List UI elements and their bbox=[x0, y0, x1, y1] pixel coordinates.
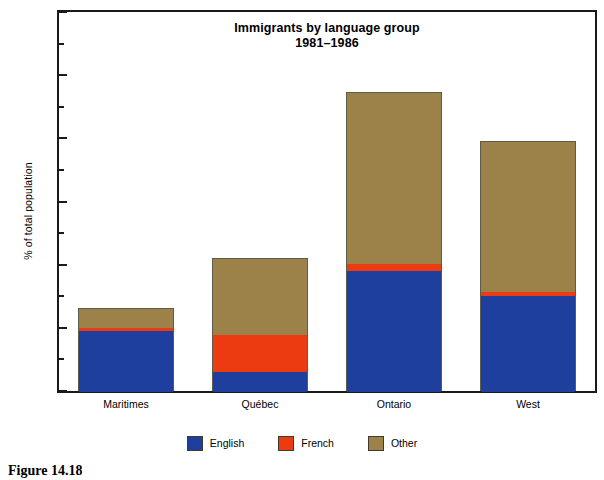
y-tick-minor bbox=[58, 358, 64, 360]
stacked-bar bbox=[212, 258, 308, 391]
legend-swatch-icon bbox=[187, 436, 203, 451]
bar-segment-other bbox=[481, 142, 575, 292]
y-tick-minor bbox=[58, 106, 64, 108]
y-tick-minor bbox=[58, 43, 64, 45]
legend-item: French bbox=[278, 436, 334, 451]
y-axis-title: % of total population bbox=[22, 131, 34, 291]
y-tick-minor bbox=[58, 232, 64, 234]
bar-segment-english bbox=[481, 296, 575, 392]
legend-swatch-icon bbox=[278, 436, 294, 451]
x-axis-label: West bbox=[478, 399, 578, 410]
y-tick-major bbox=[58, 11, 67, 13]
y-tick-major bbox=[58, 74, 67, 76]
x-axis-label: Québec bbox=[210, 399, 310, 410]
chart-legend: EnglishFrenchOther bbox=[0, 436, 604, 451]
legend-label: English bbox=[210, 438, 244, 449]
stacked-bar bbox=[480, 141, 576, 391]
legend-swatch-icon bbox=[368, 436, 384, 451]
bar-segment-other bbox=[347, 93, 441, 265]
chart-title-line2: 1981–1986 bbox=[59, 36, 595, 51]
plot-area: Immigrants by language group 1981–1986 0… bbox=[57, 10, 597, 393]
plot-inner: Immigrants by language group 1981–1986 0… bbox=[59, 12, 595, 391]
stacked-bar bbox=[346, 92, 442, 391]
y-tick-major bbox=[58, 201, 67, 203]
bar-segment-other bbox=[79, 309, 173, 328]
bar-segment-english bbox=[213, 372, 307, 392]
legend-label: Other bbox=[391, 438, 417, 449]
figure-container: % of total population Immigrants by lang… bbox=[0, 0, 604, 480]
legend-item: English bbox=[187, 436, 244, 451]
y-tick-major bbox=[58, 137, 67, 139]
x-axis-label: Ontario bbox=[344, 399, 444, 410]
y-tick-major bbox=[58, 327, 67, 329]
bar-segment-english bbox=[347, 271, 441, 392]
y-tick-minor bbox=[58, 295, 64, 297]
y-tick-major bbox=[58, 390, 67, 392]
y-tick-major bbox=[58, 264, 67, 266]
figure-caption: Figure 14.18 bbox=[8, 464, 82, 480]
chart-title-line1: Immigrants by language group bbox=[234, 21, 419, 35]
x-axis-label: Maritimes bbox=[76, 399, 176, 410]
bar-segment-french bbox=[213, 335, 307, 372]
bar-segment-other bbox=[213, 259, 307, 335]
stacked-bar bbox=[78, 308, 174, 391]
legend-item: Other bbox=[368, 436, 417, 451]
chart-title: Immigrants by language group 1981–1986 bbox=[59, 21, 595, 51]
legend-label: French bbox=[301, 438, 334, 449]
bar-segment-english bbox=[79, 331, 173, 392]
y-tick-minor bbox=[58, 169, 64, 171]
